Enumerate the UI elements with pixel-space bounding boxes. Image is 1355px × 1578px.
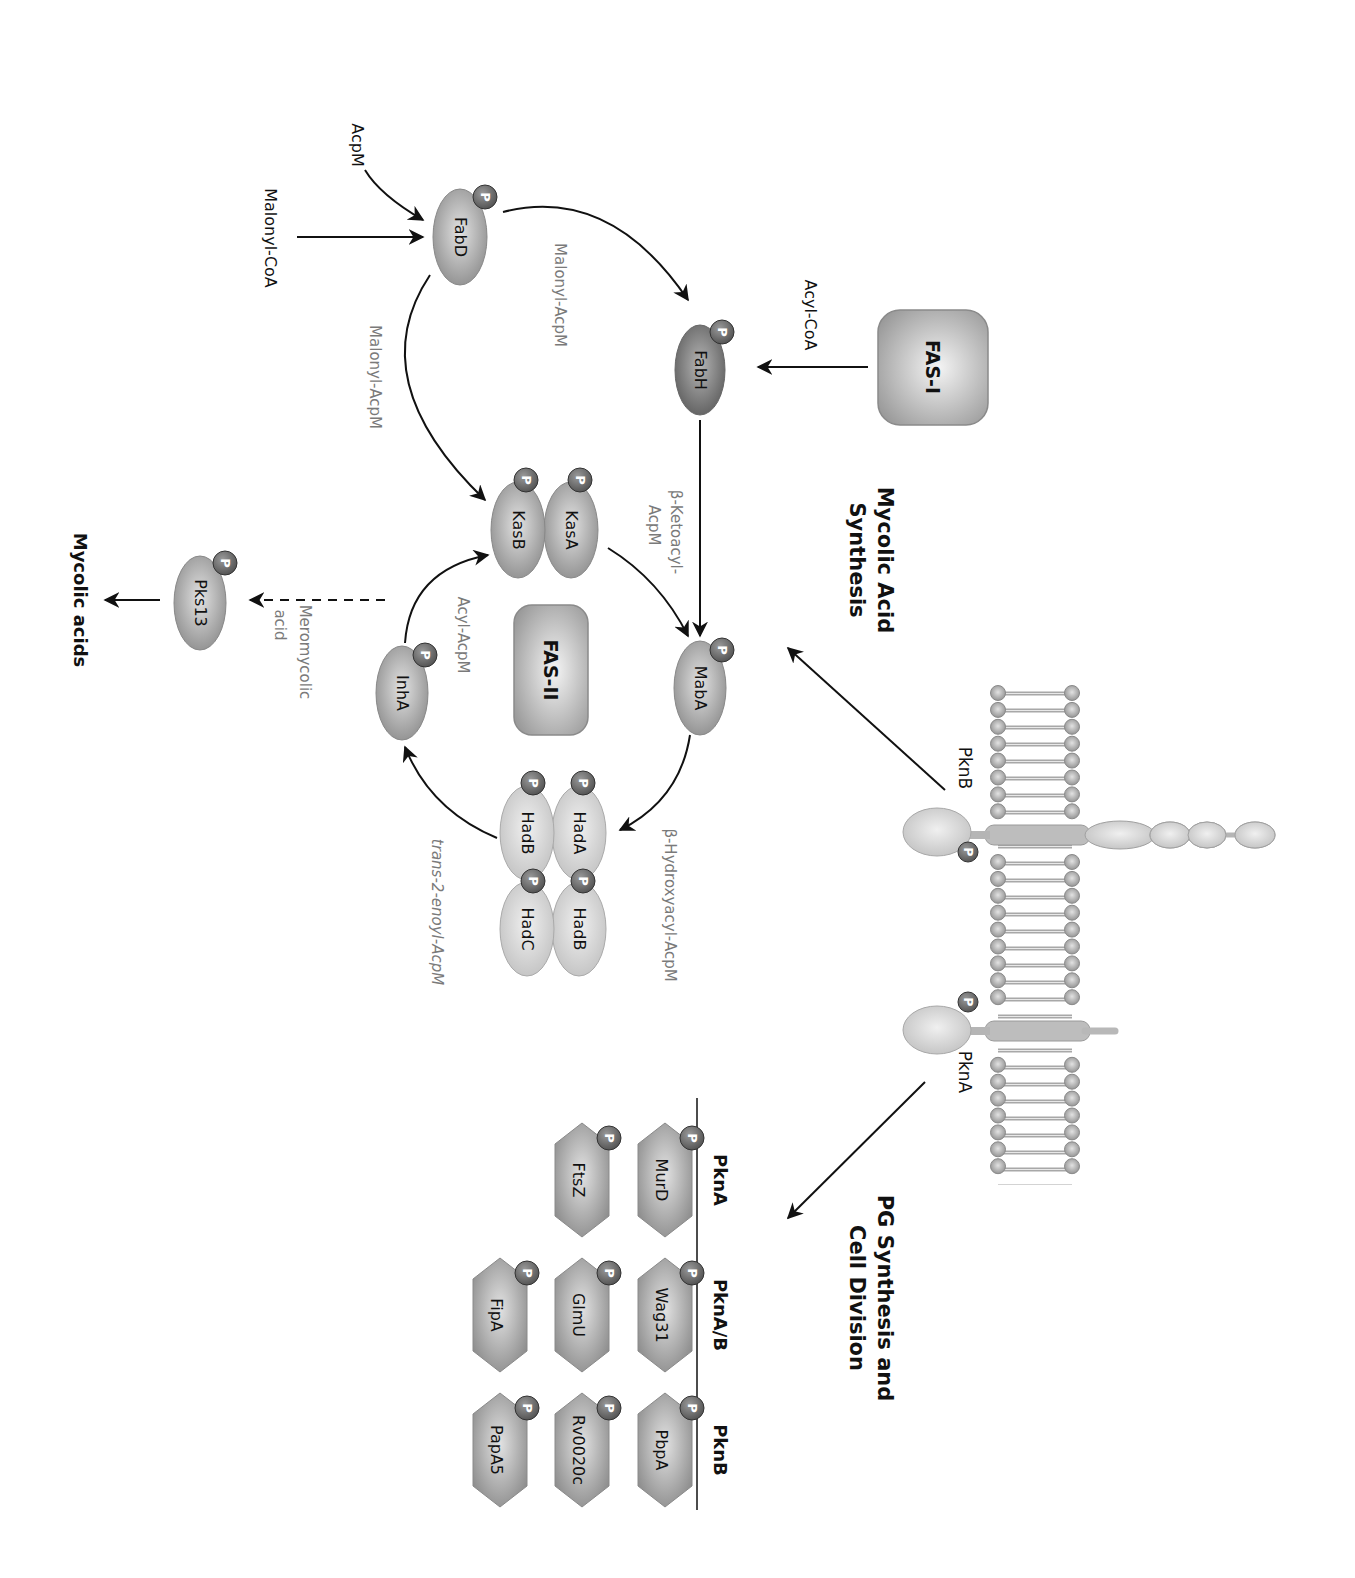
lipid-head (1065, 956, 1080, 971)
lipid-head (1065, 753, 1080, 768)
svg-text:P: P (685, 1133, 700, 1143)
table-header: PknB (710, 1424, 731, 1476)
arrow-fabd-to-fabh (503, 207, 688, 300)
table-headers: PknAPknA/BPknB (710, 1154, 731, 1476)
fas1-complex: FAS-I (878, 310, 988, 425)
enzyme-hadc: HadC P (500, 869, 554, 976)
lipid-head (1065, 787, 1080, 802)
arrow-inha-to-kasb (405, 555, 488, 643)
lipid-head (1065, 736, 1080, 751)
table-header: PknA/B (710, 1279, 731, 1351)
lipid-head (991, 855, 1006, 870)
lipid-head (991, 787, 1006, 802)
lipid-head (991, 1108, 1006, 1123)
lipid-head (991, 753, 1006, 768)
acyl-acpm-label: Acyl-AcpM (454, 596, 472, 673)
acpm-label: AcpM (348, 123, 367, 166)
arrow-pknb-to-mycolic (788, 648, 945, 790)
svg-text:KasB: KasB (509, 510, 528, 549)
lipid-head (991, 871, 1006, 886)
lipid-heads-right (1065, 686, 1080, 1174)
lipid-head (991, 1091, 1006, 1106)
svg-text:P: P (418, 650, 433, 660)
lipid-head (991, 888, 1006, 903)
lipid-head (991, 905, 1006, 920)
arrow-fabd-to-kasb (405, 275, 485, 500)
phospho-icon: P (413, 643, 437, 667)
enzyme-fabh: FabH P (675, 320, 734, 415)
substrate-glmu: GlmUP (555, 1258, 621, 1372)
svg-text:GlmU: GlmU (569, 1293, 588, 1337)
pg-section-title: PG Synthesis and Cell Division (845, 1195, 897, 1402)
svg-text:P: P (715, 327, 730, 337)
phospho-icon: P (568, 468, 592, 492)
lipid-head (991, 1125, 1006, 1140)
lipid-head (1065, 905, 1080, 920)
svg-text:P: P (602, 1133, 617, 1143)
svg-text:P: P (685, 1403, 700, 1413)
svg-text:P: P (685, 1268, 700, 1278)
lipid-head (991, 990, 1006, 1005)
phospho-icon: P (521, 771, 545, 795)
fas2-complex: FAS-II (514, 605, 588, 735)
svg-text:P: P (602, 1403, 617, 1413)
enoyl-label: trans-2-enoyl-AcpM (428, 839, 446, 985)
lipid-head (991, 804, 1006, 819)
lipid-head (1065, 1108, 1080, 1123)
lipid-head (1065, 1142, 1080, 1157)
phospho-icon: P (710, 638, 734, 662)
substrate-murd: MurDP (638, 1123, 704, 1237)
lipid-head (1065, 1125, 1080, 1140)
svg-text:P: P (520, 1268, 535, 1278)
svg-text:FabH: FabH (691, 350, 710, 390)
enzyme-kasb: KasB P (491, 468, 545, 578)
svg-text:PapA5: PapA5 (487, 1425, 506, 1475)
svg-text:P: P (218, 558, 233, 568)
lipid-head (991, 973, 1006, 988)
svg-text:MabA: MabA (691, 666, 710, 711)
pknb-label: PknB (955, 747, 975, 790)
lipid-head (1065, 1057, 1080, 1072)
svg-text:P: P (576, 778, 591, 788)
enzyme-pks13: Pks13 P (174, 551, 237, 650)
svg-text:P: P (961, 998, 975, 1007)
substrate-fipa: FipAP (473, 1258, 539, 1372)
svg-text:FtsZ: FtsZ (569, 1163, 588, 1198)
svg-text:Mycolic Acid: Mycolic Acid (873, 487, 897, 634)
lipid-head (1065, 804, 1080, 819)
svg-text:FipA: FipA (487, 1298, 506, 1332)
lipid-head (991, 1142, 1006, 1157)
svg-text:P: P (573, 475, 588, 485)
svg-text:P: P (526, 876, 541, 886)
svg-text:acid: acid (271, 609, 289, 640)
ketoacyl-label: β-Ketoacyl- AcpM (645, 490, 685, 574)
svg-text:P: P (715, 645, 730, 655)
lipid-head (1065, 770, 1080, 785)
svg-text:P: P (520, 1403, 535, 1413)
meromycolic-label: Meromycolic acid (271, 605, 314, 700)
svg-text:FAS-II: FAS-II (540, 639, 562, 700)
arrow-acpm-to-fabd (365, 170, 423, 220)
malonyl-coa-label: Malonyl-CoA (261, 188, 280, 288)
lipid-head (991, 736, 1006, 751)
svg-text:P: P (478, 192, 493, 202)
lipid-head (1065, 719, 1080, 734)
svg-text:FabD: FabD (451, 217, 470, 257)
svg-text:MurD: MurD (652, 1159, 671, 1202)
lipid-head (991, 686, 1006, 701)
svg-text:KasA: KasA (562, 510, 581, 549)
phospho-icon: P (710, 320, 734, 344)
hydroxyacyl-label: β-Hydroxyacyl-AcpM (661, 828, 679, 981)
enzyme-maba: MabA P (674, 638, 734, 735)
lipid-head (1065, 1159, 1080, 1174)
lipid-head (1065, 973, 1080, 988)
acyl-coa-label: Acyl-CoA (801, 279, 820, 350)
lipid-head (1065, 686, 1080, 701)
pathway-diagram: P PknB P PknA Mycolic Acid Synthesis PG … (0, 0, 1355, 1578)
svg-text:AcpM: AcpM (645, 505, 663, 546)
enzyme-inha: InhA P (376, 643, 437, 740)
svg-text:FAS-I: FAS-I (922, 340, 944, 394)
lipid-head (1065, 990, 1080, 1005)
phospho-icon: P (521, 869, 545, 893)
mycolic-acids-label: Mycolic acids (70, 533, 91, 668)
